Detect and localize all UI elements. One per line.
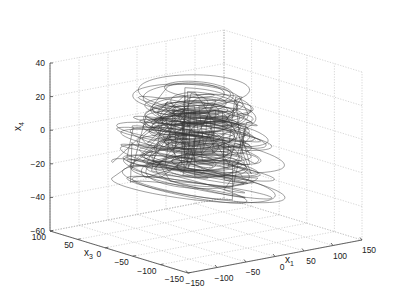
svg-text:−50: −50: [114, 257, 129, 267]
chart-3d-plot: −150−100−50050100150−150−100−50050100−60…: [0, 0, 393, 295]
svg-text:40: 40: [36, 58, 46, 68]
svg-text:−100: −100: [214, 273, 233, 283]
svg-text:0: 0: [280, 262, 285, 272]
trajectory-curve: [112, 75, 285, 203]
z-axis-label: x4: [12, 122, 25, 131]
svg-text:−100: −100: [137, 266, 156, 276]
svg-text:100: 100: [333, 251, 347, 261]
svg-text:50: 50: [306, 256, 316, 266]
svg-text:0: 0: [96, 249, 101, 259]
svg-text:−150: −150: [185, 278, 204, 288]
svg-text:−20: −20: [31, 159, 46, 169]
svg-text:50: 50: [64, 240, 74, 250]
svg-text:150: 150: [362, 245, 376, 255]
x-axis-label: x1: [285, 254, 294, 267]
svg-text:20: 20: [36, 92, 46, 102]
svg-text:0: 0: [40, 125, 45, 135]
y-axis-label: x3: [84, 247, 93, 260]
svg-text:−60: −60: [31, 226, 46, 236]
svg-text:−40: −40: [31, 192, 46, 202]
svg-text:−150: −150: [165, 274, 184, 284]
svg-text:−50: −50: [246, 267, 261, 277]
